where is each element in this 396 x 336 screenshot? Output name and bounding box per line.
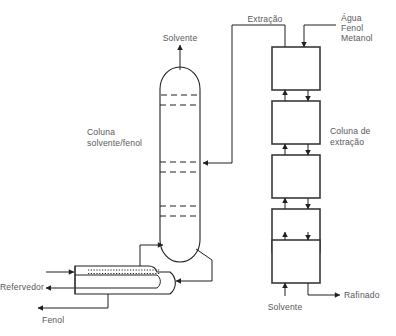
extraction-stage-box	[272, 240, 320, 283]
extraction-stage-box	[272, 155, 320, 198]
rafinado-product-line	[308, 283, 340, 295]
label-feed-fenol: Fenol	[341, 23, 363, 33]
reboiler-vapour-return	[140, 245, 163, 266]
column-bottoms-to-reboiler	[176, 260, 212, 281]
extraction-stage-box	[272, 101, 320, 144]
extraction-column-group	[272, 47, 320, 283]
label-feed-agua: Água	[341, 13, 362, 23]
process-flow-diagram: Solvente Extração Água Fenol Metanol Col…	[0, 0, 396, 336]
label-solvente-bottom: Solvente	[268, 302, 303, 312]
feed-agua-fenol-metanol-line	[304, 25, 336, 47]
label-feed-metanol: Metanol	[341, 33, 373, 43]
extraction-stage-box	[272, 47, 320, 90]
reboiler-group	[75, 266, 175, 294]
label-solvente-top: Solvente	[163, 33, 198, 43]
label-rafinado: Rafinado	[344, 290, 380, 300]
label-refervedor: Refervedor	[0, 282, 44, 292]
column-bottom-outlet-stub	[196, 249, 212, 260]
distillation-column-group	[160, 67, 200, 262]
flowsheet-canvas: Solvente Extração Água Fenol Metanol Col…	[0, 0, 396, 336]
label-coluna-extracao-1: Coluna de	[330, 126, 371, 136]
fenol-product-line	[38, 294, 108, 308]
label-extracao: Extração	[247, 14, 282, 24]
label-coluna-extracao-2: extração	[330, 137, 364, 147]
label-coluna-solvente-fenol-1: Coluna	[87, 127, 115, 137]
distillation-column-shell	[160, 67, 200, 262]
label-fenol-bottom: Fenol	[42, 315, 64, 325]
label-coluna-solvente-fenol-2: solvente/fenol	[87, 138, 142, 148]
